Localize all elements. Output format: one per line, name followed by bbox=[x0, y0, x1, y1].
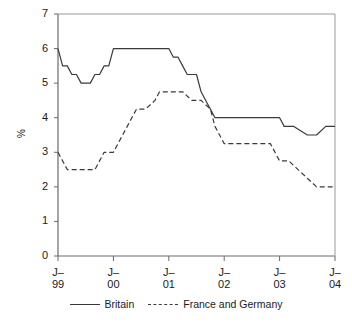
x-tick-year: 03 bbox=[260, 278, 300, 290]
y-axis-tick-label: 5 bbox=[32, 77, 48, 88]
legend-line-swatch bbox=[70, 304, 100, 305]
y-axis-tick-label: 1 bbox=[32, 215, 48, 226]
data-series-layer bbox=[58, 49, 335, 187]
line-chart: % 01234567 J–99J–00J–01J–02J–03J–04 Brit… bbox=[0, 0, 352, 324]
x-axis-tick-label: J–00 bbox=[93, 266, 133, 290]
legend-label: France and Germany bbox=[183, 298, 282, 310]
legend-line-swatch bbox=[148, 304, 178, 305]
x-tick-year: 99 bbox=[38, 278, 78, 290]
x-tick-year: 04 bbox=[315, 278, 352, 290]
legend-label: Britain bbox=[105, 298, 135, 310]
x-tick-month: J– bbox=[38, 266, 78, 278]
y-axis-tick-label: 4 bbox=[32, 112, 48, 123]
x-axis-tick-label: J–04 bbox=[315, 266, 352, 290]
x-tick-month: J– bbox=[315, 266, 352, 278]
x-axis-tick-label: J–03 bbox=[260, 266, 300, 290]
axes bbox=[58, 14, 335, 256]
series-line-britain bbox=[58, 49, 335, 135]
y-axis-tick-label: 3 bbox=[32, 146, 48, 157]
x-tick-year: 00 bbox=[93, 278, 133, 290]
y-axis-tick-label: 0 bbox=[32, 250, 48, 261]
x-tick-year: 02 bbox=[204, 278, 244, 290]
x-tick-year: 01 bbox=[149, 278, 189, 290]
x-axis-tick-label: J–99 bbox=[38, 266, 78, 290]
chart-legend: BritainFrance and Germany bbox=[0, 298, 352, 310]
x-axis-tick-label: J–02 bbox=[204, 266, 244, 290]
y-axis-tick-label: 2 bbox=[32, 181, 48, 192]
y-axis-tick-label: 6 bbox=[32, 43, 48, 54]
x-tick-month: J– bbox=[260, 266, 300, 278]
x-tick-month: J– bbox=[204, 266, 244, 278]
legend-entry[interactable]: Britain bbox=[70, 298, 135, 310]
x-tick-month: J– bbox=[149, 266, 189, 278]
y-axis-tick-label: 7 bbox=[32, 8, 48, 19]
x-tick-month: J– bbox=[93, 266, 133, 278]
y-axis-title: % bbox=[16, 121, 27, 147]
x-axis-ticks bbox=[58, 256, 335, 261]
legend-entry[interactable]: France and Germany bbox=[148, 298, 282, 310]
series-line-france-and-germany bbox=[58, 92, 335, 187]
x-axis-tick-label: J–01 bbox=[149, 266, 189, 290]
